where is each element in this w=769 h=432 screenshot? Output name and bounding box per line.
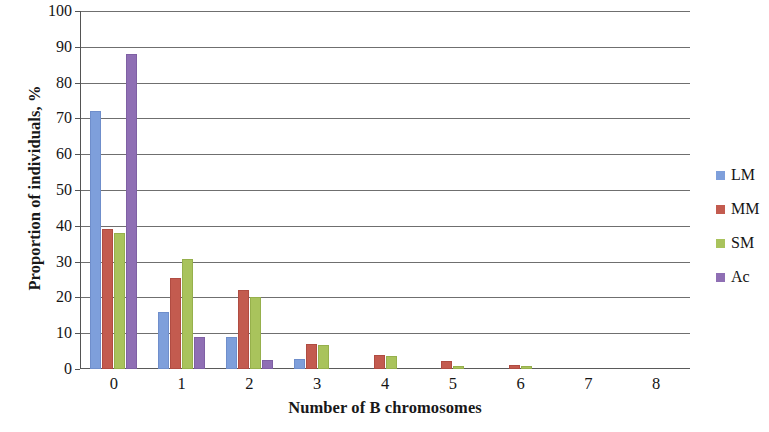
legend-item-mm[interactable]: MM	[716, 192, 769, 226]
bar-mm-4	[374, 355, 385, 369]
bar-mm-5	[441, 361, 452, 369]
y-axis-tick	[75, 369, 80, 370]
x-axis-tick-label: 6	[487, 372, 555, 398]
bar-group-0	[80, 11, 148, 369]
bar-group-7	[554, 11, 622, 369]
legend-item-lm[interactable]: LM	[716, 158, 769, 192]
x-axis-tick-label: 8	[622, 372, 690, 398]
legend-label-mm: MM	[731, 201, 759, 217]
y-axis-tick-label: 10	[32, 325, 72, 341]
bar-group-8	[622, 11, 690, 369]
bar-group-1	[148, 11, 216, 369]
bar-mm-3	[306, 344, 317, 369]
plot-area	[80, 11, 690, 369]
bar-mm-6	[509, 365, 520, 369]
x-axis-tick-label: 4	[351, 372, 419, 398]
y-axis-tick-label: 60	[32, 146, 72, 162]
bar-lm-3	[294, 359, 305, 369]
legend-item-ac[interactable]: Ac	[716, 260, 769, 294]
y-axis-tick	[75, 262, 80, 263]
x-axis-tick-label: 1	[148, 372, 216, 398]
bar-sm-2	[250, 297, 261, 369]
y-axis-tick-label: 80	[32, 75, 72, 91]
bar-lm-1	[158, 312, 169, 369]
bar-mm-1	[170, 278, 181, 369]
x-axis-tick-labels: 012345678	[80, 372, 690, 398]
bar-lm-0	[90, 111, 101, 369]
y-axis-tick-label: 100	[32, 3, 72, 19]
y-axis-tick-label: 40	[32, 218, 72, 234]
x-axis-tick-label: 3	[283, 372, 351, 398]
y-axis-tick	[75, 190, 80, 191]
y-axis-tick	[75, 118, 80, 119]
bar-group-4	[351, 11, 419, 369]
y-axis-tick	[75, 11, 80, 12]
bar-group-2	[216, 11, 284, 369]
y-axis-tick	[75, 226, 80, 227]
y-axis-tick	[75, 83, 80, 84]
y-axis-tick	[75, 333, 80, 334]
y-axis-tick-labels: 1009080706050403020100	[28, 11, 72, 369]
legend: LMMMSMAc	[716, 158, 769, 294]
legend-swatch-mm	[716, 205, 725, 214]
bar-chart: Proportion of individuals, % 10090807060…	[0, 0, 769, 432]
x-axis-tick-label: 5	[419, 372, 487, 398]
legend-item-sm[interactable]: SM	[716, 226, 769, 260]
bar-group-5	[419, 11, 487, 369]
legend-swatch-ac	[716, 273, 725, 282]
bar-sm-4	[386, 356, 397, 369]
bar-mm-2	[238, 290, 249, 369]
y-axis-tick-label: 20	[32, 289, 72, 305]
y-axis-tick	[75, 154, 80, 155]
x-axis-tick-label: 0	[80, 372, 148, 398]
legend-label-ac: Ac	[731, 269, 750, 285]
y-axis-tick-label: 0	[32, 361, 72, 377]
y-axis-tick-label: 30	[32, 254, 72, 270]
y-axis-tick-label: 90	[32, 39, 72, 55]
legend-label-lm: LM	[731, 167, 755, 183]
y-axis-tick-label: 50	[32, 182, 72, 198]
bar-ac-1	[194, 337, 205, 369]
bar-groups	[80, 11, 690, 369]
x-axis-tick-label: 2	[216, 372, 284, 398]
bar-sm-6	[521, 366, 532, 369]
bar-sm-3	[318, 345, 329, 369]
legend-label-sm: SM	[731, 235, 754, 251]
y-axis-tick-label: 70	[32, 110, 72, 126]
bar-sm-0	[114, 233, 125, 369]
x-axis-title: Number of B chromosomes	[80, 398, 690, 418]
bar-group-6	[487, 11, 555, 369]
legend-swatch-sm	[716, 239, 725, 248]
bar-lm-2	[226, 337, 237, 369]
bar-ac-0	[126, 54, 137, 369]
bar-ac-2	[262, 360, 273, 369]
bar-sm-5	[453, 366, 464, 369]
legend-swatch-lm	[716, 171, 725, 180]
y-axis-tick	[75, 297, 80, 298]
bar-group-3	[283, 11, 351, 369]
bar-mm-0	[102, 229, 113, 369]
x-axis-tick-label: 7	[554, 372, 622, 398]
bar-sm-1	[182, 259, 193, 369]
y-axis-tick	[75, 47, 80, 48]
